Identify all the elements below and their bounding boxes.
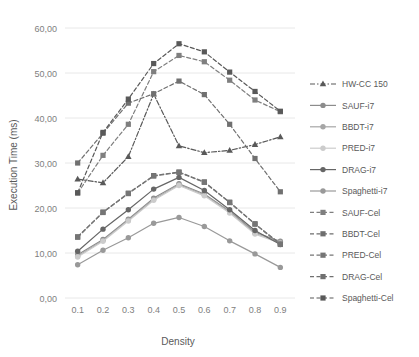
data-point-marker <box>100 210 105 215</box>
data-point-marker <box>176 215 181 220</box>
data-point-marker <box>100 130 105 135</box>
data-point-marker <box>227 78 232 83</box>
data-series-group <box>74 41 283 270</box>
series-line <box>78 177 281 251</box>
legend-label: Spaghetti-Cel <box>342 293 394 303</box>
legend-item-hw-cc-150[interactable]: HW-CC 150 <box>310 79 388 89</box>
data-point-marker <box>202 193 207 198</box>
legend-label: SAUF-Cel <box>342 208 380 218</box>
chart-legend: HW-CC 150SAUF-i7BBDT-i7PRED-i7DRAG-i7Spa… <box>310 79 394 303</box>
y-tick-label: 30,00 <box>34 159 57 169</box>
data-point-marker <box>227 70 232 75</box>
x-tick-label: 0.9 <box>274 305 287 315</box>
data-point-marker <box>227 122 232 127</box>
x-tick-label: 0.5 <box>173 305 186 315</box>
data-point-marker <box>75 190 80 195</box>
data-point-marker <box>320 210 325 215</box>
data-point-marker <box>278 189 283 194</box>
data-point-marker <box>126 191 131 196</box>
data-point-marker <box>252 251 257 256</box>
data-point-marker <box>100 226 105 231</box>
data-point-marker <box>252 222 257 227</box>
data-point-marker <box>278 265 283 270</box>
data-point-marker <box>151 173 156 178</box>
data-point-marker <box>125 153 131 159</box>
legend-label: SAUF-i7 <box>342 101 374 111</box>
data-point-marker <box>252 97 257 102</box>
x-tick-label: 0.2 <box>97 305 110 315</box>
x-tick-label: 0.1 <box>71 305 84 315</box>
data-point-marker <box>202 180 207 185</box>
data-point-marker <box>320 231 325 236</box>
chart-container: 0,0010,0020,0030,0040,0050,0060,00 0.10.… <box>0 0 419 357</box>
x-tick-label: 0.3 <box>122 305 135 315</box>
legend-item-drag-i7[interactable]: DRAG-i7 <box>310 165 376 175</box>
data-point-marker <box>126 97 131 102</box>
legend-label: BBDT-i7 <box>342 122 374 132</box>
data-point-marker <box>74 176 80 182</box>
y-axis-title: Execution Time (ms) <box>8 119 19 210</box>
data-point-marker <box>151 61 156 66</box>
data-point-marker <box>277 133 283 139</box>
data-point-marker <box>202 49 207 54</box>
data-point-marker <box>100 248 105 253</box>
legend-label: PRED-Cel <box>342 250 381 260</box>
y-tick-label: 10,00 <box>34 249 57 259</box>
x-tick-label: 0.6 <box>198 305 211 315</box>
data-point-marker <box>126 218 131 223</box>
legend-item-spaghetti-i7[interactable]: Spaghetti-i7 <box>310 186 388 196</box>
data-point-marker <box>75 254 80 259</box>
legend-item-pred-cel[interactable]: PRED-Cel <box>310 250 381 260</box>
legend-item-bbdt-i7[interactable]: BBDT-i7 <box>310 122 374 132</box>
legend-item-sauf-cel[interactable]: SAUF-Cel <box>310 208 380 218</box>
legend-item-bbdt-cel[interactable]: BBDT-Cel <box>310 229 380 239</box>
data-point-marker <box>202 224 207 229</box>
legend-item-spaghetti-cel[interactable]: Spaghetti-Cel <box>310 293 394 303</box>
data-point-marker <box>151 69 156 74</box>
data-point-marker <box>320 295 325 300</box>
data-point-marker <box>75 262 80 267</box>
data-point-marker <box>252 89 257 94</box>
x-axis-tick-labels: 0.10.20.30.40.50.60.70.80.9 <box>71 305 286 315</box>
legend-item-sauf-i7[interactable]: SAUF-i7 <box>310 101 374 111</box>
data-point-marker <box>100 153 105 158</box>
data-point-marker <box>126 235 131 240</box>
legend-item-drag-cel[interactable]: DRAG-Cel <box>310 272 382 282</box>
data-point-marker <box>320 167 325 172</box>
data-point-marker <box>176 175 181 180</box>
data-point-marker <box>320 274 325 279</box>
y-tick-label: 60,00 <box>34 24 57 34</box>
data-point-marker <box>278 109 283 114</box>
legend-label: DRAG-i7 <box>342 165 376 175</box>
legend-label: DRAG-Cel <box>342 272 382 282</box>
legend-label: Spaghetti-i7 <box>342 186 388 196</box>
legend-label: HW-CC 150 <box>342 79 388 89</box>
data-point-marker <box>320 103 325 108</box>
data-point-marker <box>75 235 80 240</box>
data-point-marker <box>151 186 156 191</box>
data-point-marker <box>320 146 325 151</box>
line-chart: 0,0010,0020,0030,0040,0050,0060,00 0.10.… <box>0 0 419 357</box>
data-point-marker <box>320 188 325 193</box>
data-point-marker <box>176 53 181 58</box>
series-spaghetti-i7 <box>75 215 283 270</box>
x-tick-label: 0.7 <box>223 305 236 315</box>
data-point-marker <box>75 249 80 254</box>
data-point-marker <box>176 183 181 188</box>
data-point-marker <box>252 156 257 161</box>
data-point-marker <box>320 124 325 129</box>
data-point-marker <box>202 188 207 193</box>
legend-item-pred-i7[interactable]: PRED-i7 <box>310 143 375 153</box>
data-point-marker <box>202 92 207 97</box>
data-point-marker <box>151 221 156 226</box>
data-point-marker <box>320 253 325 258</box>
data-point-marker <box>176 170 181 175</box>
y-axis-tick-labels: 0,0010,0020,0030,0040,0050,0060,00 <box>34 24 57 304</box>
data-point-marker <box>151 198 156 203</box>
y-tick-label: 20,00 <box>34 204 57 214</box>
data-point-marker <box>227 238 232 243</box>
data-point-marker <box>126 207 131 212</box>
data-point-marker <box>75 160 80 165</box>
data-point-marker <box>176 142 182 148</box>
y-tick-label: 0,00 <box>39 294 57 304</box>
